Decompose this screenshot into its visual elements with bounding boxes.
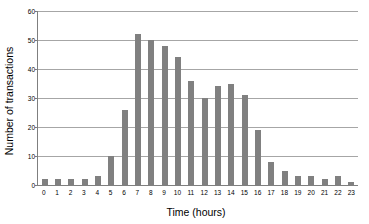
plot-area: 0102030405060 [37,11,358,186]
bar [322,179,328,185]
bar [282,171,288,186]
bar-slot [225,11,238,185]
y-tick-label: 60 [28,8,35,15]
bar-slot [185,11,198,185]
bar-slot [38,11,51,185]
bar [108,156,114,185]
y-tick-label: 0 [31,182,35,189]
x-tick-label: 0 [37,188,50,200]
x-tick-label: 19 [291,188,304,200]
bar [335,176,341,185]
y-tick-label: 50 [28,37,35,44]
x-tick-label: 22 [331,188,344,200]
bar-slot [78,11,91,185]
bar-slot [118,11,131,185]
x-axis-tick-labels: 01234567891011121314151617181920212223 [37,188,358,200]
bar-slot [318,11,331,185]
bar-slot [171,11,184,185]
bar-slot [105,11,118,185]
x-tick-label: 6 [117,188,130,200]
x-tick-label: 9 [157,188,170,200]
x-tick-label: 23 [345,188,358,200]
bar [148,40,154,185]
y-tick-label: 10 [28,153,35,160]
bar [135,34,141,185]
bar [228,84,234,186]
bar-slot [91,11,104,185]
bar [82,179,88,185]
bar-slot [65,11,78,185]
x-tick-label: 11 [184,188,197,200]
bar [162,46,168,185]
bar-slot [265,11,278,185]
x-tick-label: 18 [278,188,291,200]
bar-slot [198,11,211,185]
bar [175,57,181,185]
x-tick-label: 15 [238,188,251,200]
bar [268,162,274,185]
x-tick-label: 10 [171,188,184,200]
bar-slot [278,11,291,185]
bar [215,86,221,185]
bar-slot [211,11,224,185]
bar [68,179,74,185]
bar [122,110,128,185]
bar-slot [305,11,318,185]
bar [42,179,48,185]
y-tick-mark [35,185,38,186]
bar-slot [145,11,158,185]
bar [242,95,248,185]
bar [55,179,61,185]
x-tick-label: 1 [50,188,63,200]
x-tick-label: 17 [264,188,277,200]
bar-slot [158,11,171,185]
x-tick-label: 12 [198,188,211,200]
bar-slot [291,11,304,185]
bar [188,81,194,185]
x-axis-title: Time (hours) [36,206,356,218]
bar [348,182,354,185]
x-tick-label: 2 [64,188,77,200]
bar-slot [251,11,264,185]
x-tick-label: 8 [144,188,157,200]
bar-slot [238,11,251,185]
x-tick-label: 5 [104,188,117,200]
y-axis-title: Number of transactions [2,6,16,196]
x-tick-label: 16 [251,188,264,200]
x-tick-label: 13 [211,188,224,200]
x-tick-label: 3 [77,188,90,200]
x-tick-label: 21 [318,188,331,200]
x-tick-label: 4 [91,188,104,200]
bars [38,11,358,185]
bar [295,176,301,185]
y-tick-label: 30 [28,95,35,102]
x-tick-label: 14 [224,188,237,200]
bar-slot [131,11,144,185]
bar-slot [345,11,358,185]
x-tick-label: 7 [131,188,144,200]
bar [95,176,101,185]
bar [202,98,208,185]
bar [308,176,314,185]
y-tick-label: 20 [28,124,35,131]
y-tick-label: 40 [28,66,35,73]
bar [255,130,261,185]
bar-chart: Number of transactions 0102030405060 012… [0,0,369,224]
bar-slot [51,11,64,185]
x-tick-label: 20 [305,188,318,200]
bar-slot [331,11,344,185]
